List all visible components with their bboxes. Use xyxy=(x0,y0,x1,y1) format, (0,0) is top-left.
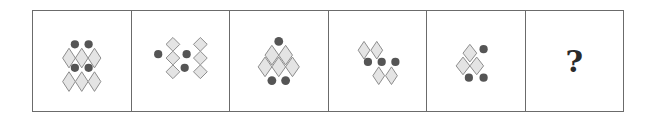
panel-1 xyxy=(33,11,132,111)
panel-4 xyxy=(329,11,428,111)
panel-5 xyxy=(427,11,526,111)
panel-3 xyxy=(230,11,329,111)
panel-2 xyxy=(132,11,231,111)
panel-4-figure xyxy=(329,11,427,111)
panel-6-answer[interactable]: ? xyxy=(526,11,624,111)
panel-5-figure xyxy=(427,11,525,111)
diamond-shapes xyxy=(63,48,101,91)
diamond-shapes xyxy=(258,45,299,76)
panel-2-figure xyxy=(132,11,230,111)
panel-1-figure xyxy=(33,11,131,111)
diamond-shapes xyxy=(456,44,483,74)
puzzle-strip: ? xyxy=(32,10,624,112)
panel-3-figure xyxy=(230,11,328,111)
question-mark: ? xyxy=(526,11,624,111)
dot-shapes xyxy=(363,58,399,66)
